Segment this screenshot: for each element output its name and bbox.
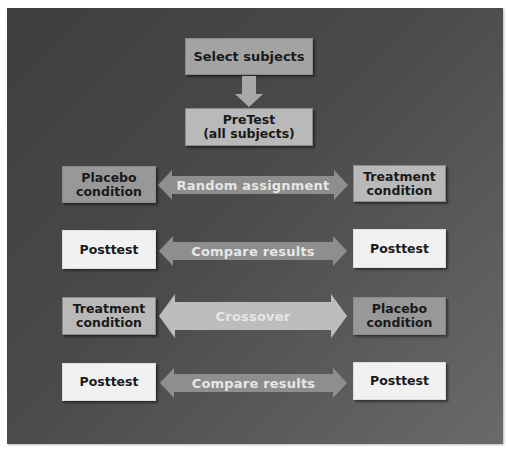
- box-label-line1: Posttest: [79, 243, 138, 257]
- treatment-condition-box: Treatment condition: [353, 165, 446, 202]
- box-label-line1: Posttest: [370, 374, 429, 388]
- pretest-box: PreTest (all subjects): [185, 108, 313, 146]
- treatment-condition-box: Treatment condition: [62, 297, 156, 335]
- box-label-line2: condition: [76, 185, 142, 199]
- box-label-line2: condition: [367, 184, 433, 198]
- box-label-line2: condition: [76, 316, 142, 330]
- compare-results-arrow: Compare results: [160, 368, 347, 398]
- box-label-line1: Posttest: [370, 242, 429, 256]
- box-label-line2: condition: [367, 316, 433, 330]
- box-label-line1: Treatment: [73, 302, 146, 316]
- posttest-box-left: Posttest: [62, 363, 156, 401]
- box-label-line1: Placebo: [372, 302, 427, 316]
- select-subjects-label: Select subjects: [193, 50, 304, 64]
- posttest-box-right: Posttest: [353, 229, 446, 268]
- crossover-arrow: Crossover: [159, 294, 347, 338]
- arrow-label: Crossover: [159, 294, 347, 338]
- box-label-line1: Treatment: [363, 170, 436, 184]
- posttest-box-left: Posttest: [62, 230, 156, 269]
- arrow-label: Random assignment: [158, 170, 348, 200]
- random-assignment-arrow: Random assignment: [158, 170, 348, 200]
- arrow-label: Compare results: [159, 236, 347, 266]
- arrow-label: Compare results: [160, 368, 347, 398]
- compare-results-arrow: Compare results: [159, 236, 347, 266]
- box-label-line1: Placebo: [81, 171, 136, 185]
- placebo-condition-box: Placebo condition: [353, 297, 446, 335]
- box-label-line1: Posttest: [79, 375, 138, 389]
- select-subjects-box: Select subjects: [185, 38, 313, 75]
- placebo-condition-box: Placebo condition: [62, 166, 156, 203]
- pretest-label: PreTest: [223, 113, 276, 127]
- posttest-box-right: Posttest: [353, 362, 446, 400]
- pretest-sublabel: (all subjects): [203, 127, 295, 141]
- down-arrow-icon: [234, 76, 264, 108]
